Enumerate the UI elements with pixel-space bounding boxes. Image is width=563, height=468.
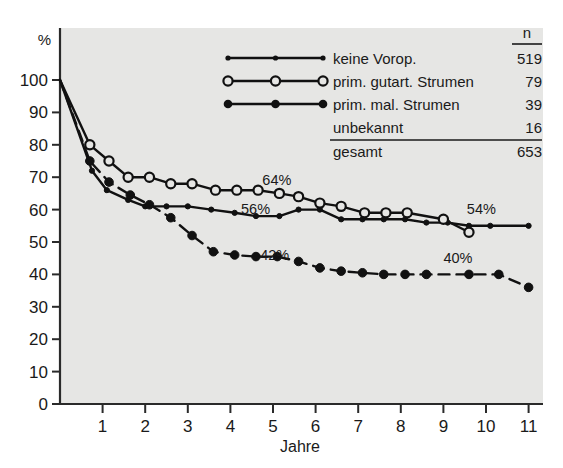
- x-tick-label: 9: [439, 417, 448, 436]
- data-point: [401, 270, 410, 279]
- x-tick-label: 10: [477, 417, 496, 436]
- data-point: [126, 191, 135, 200]
- y-tick-label: 0: [39, 395, 48, 414]
- legend-sample-marker: [271, 76, 280, 85]
- y-tick-label: 20: [29, 330, 48, 349]
- y-axis-unit-label: %: [38, 31, 51, 48]
- data-point: [104, 156, 113, 165]
- legend-item-label: unbekannt: [333, 119, 404, 136]
- data-point: [230, 251, 239, 260]
- y-tick-label: 30: [29, 298, 48, 317]
- legend-total-label: gesamt: [333, 143, 383, 160]
- legend-item-label: keine Vorop.: [333, 50, 416, 67]
- data-point: [185, 204, 190, 209]
- data-point: [316, 264, 325, 273]
- data-point: [232, 210, 237, 215]
- data-point: [209, 247, 218, 256]
- x-tick-label: 7: [353, 417, 362, 436]
- data-point: [124, 173, 133, 182]
- data-point: [379, 270, 388, 279]
- data-point: [188, 231, 197, 240]
- legend-item-count: 16: [525, 119, 542, 136]
- y-tick-label: 40: [29, 265, 48, 284]
- data-point: [166, 213, 175, 222]
- legend-item-count: 519: [517, 50, 542, 67]
- x-tick-label: 1: [98, 417, 107, 436]
- data-point: [524, 283, 533, 292]
- data-point: [360, 208, 369, 217]
- annotation-label: 56%: [241, 201, 270, 217]
- legend-sample-marker: [320, 55, 325, 60]
- data-point: [526, 223, 531, 228]
- y-tick-label: 50: [29, 233, 48, 252]
- x-tick-label: 11: [520, 417, 538, 436]
- x-axis-ticks: 1234567891011: [98, 404, 538, 436]
- data-point: [315, 199, 324, 208]
- legend-sample-marker: [273, 55, 278, 60]
- data-point: [358, 268, 367, 277]
- data-point: [422, 270, 431, 279]
- data-point: [166, 179, 175, 188]
- y-tick-label: 100: [20, 71, 48, 90]
- data-point: [145, 200, 154, 209]
- data-point: [294, 257, 303, 266]
- data-point: [209, 207, 214, 212]
- data-point: [253, 186, 262, 195]
- data-point: [89, 168, 94, 173]
- data-point: [275, 189, 284, 198]
- x-tick-label: 5: [268, 417, 277, 436]
- x-tick-label: 4: [226, 417, 235, 436]
- data-point: [337, 202, 346, 211]
- y-tick-label: 10: [29, 363, 48, 382]
- data-point: [465, 270, 474, 279]
- legend-sample-marker: [318, 76, 327, 85]
- legend-item-label: prim. gutart. Strumen: [333, 73, 474, 90]
- data-point: [339, 217, 344, 222]
- legend-item-label: prim. mal. Strumen: [333, 96, 460, 113]
- survival-curve-chart: 0102030405060708090100 1234567891011 % J…: [0, 0, 563, 468]
- data-point: [424, 220, 429, 225]
- legend-item-count: 79: [525, 73, 542, 90]
- x-tick-label: 8: [396, 417, 405, 436]
- data-point: [164, 204, 169, 209]
- legend: nkeine Vorop.519prim. gutart. Strumen79p…: [223, 24, 542, 160]
- data-point: [296, 207, 301, 212]
- data-point: [403, 208, 412, 217]
- data-point: [85, 140, 94, 149]
- series-0: [60, 80, 531, 228]
- data-point: [104, 188, 109, 193]
- data-point: [145, 173, 154, 182]
- annotation-label: 64%: [262, 172, 291, 188]
- y-tick-label: 80: [29, 136, 48, 155]
- x-tick-label: 6: [311, 417, 320, 436]
- legend-sample-marker: [223, 76, 232, 85]
- legend-sample-marker: [271, 100, 280, 109]
- chart-figure: 0102030405060708090100 1234567891011 % J…: [0, 0, 563, 468]
- data-point: [488, 223, 493, 228]
- data-point: [277, 213, 282, 218]
- data-point: [187, 179, 196, 188]
- y-tick-label: 60: [29, 201, 48, 220]
- legend-item-count: 39: [525, 96, 542, 113]
- data-point: [337, 267, 346, 276]
- data-point: [381, 208, 390, 217]
- y-tick-label: 90: [29, 103, 48, 122]
- data-point: [211, 186, 220, 195]
- legend-total-count: 653: [517, 143, 542, 160]
- x-tick-label: 3: [183, 417, 192, 436]
- data-point: [494, 270, 503, 279]
- data-point: [439, 215, 448, 224]
- data-point: [294, 192, 303, 201]
- data-point: [464, 228, 473, 237]
- y-tick-label: 70: [29, 168, 48, 187]
- legend-sample-marker: [225, 55, 230, 60]
- legend-sample-marker: [224, 100, 233, 109]
- data-point: [252, 252, 261, 261]
- x-axis-title: Jahre: [280, 438, 320, 455]
- annotation-label: 42%: [260, 247, 289, 263]
- legend-sample-marker: [319, 100, 328, 109]
- annotation-label: 54%: [467, 201, 496, 217]
- data-point: [86, 157, 95, 166]
- y-axis-ticks: 0102030405060708090100: [20, 71, 60, 414]
- annotation-label: 40%: [443, 250, 472, 266]
